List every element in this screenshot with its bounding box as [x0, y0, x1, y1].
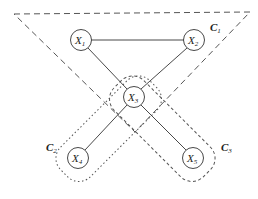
cluster-label-c3: C3 — [221, 141, 232, 155]
cluster-c2 — [49, 69, 168, 188]
clique-diagram: X1 X2 X3 X4 X5 C1 C2 C3 — [0, 0, 258, 199]
edge-x2-x3 — [141, 48, 187, 89]
edge-x1-x3 — [88, 48, 127, 89]
node-x1: X1 — [71, 30, 92, 51]
cluster-label-c1: C1 — [210, 21, 221, 35]
cluster-label-c2: C2 — [46, 141, 57, 155]
node-x4: X4 — [68, 148, 89, 169]
node-x3: X3 — [124, 87, 145, 108]
edge-x3-x4 — [85, 105, 127, 150]
node-x5: X5 — [183, 148, 204, 169]
node-x2: X2 — [184, 30, 205, 51]
